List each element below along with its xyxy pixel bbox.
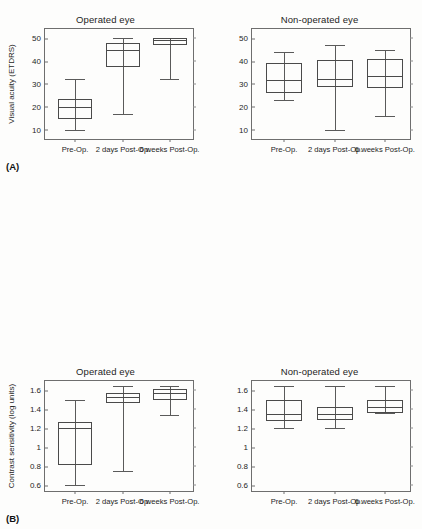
x-tick-0 bbox=[75, 491, 76, 494]
y-tick-right-20 bbox=[193, 106, 196, 107]
y-axis-label-text: Visual acuity (ETDRS) bbox=[6, 28, 18, 140]
x-tick-2 bbox=[384, 491, 385, 494]
x-tick-0 bbox=[75, 139, 76, 142]
x-tick-1 bbox=[123, 491, 124, 494]
y-tick-1.6: 1.6 bbox=[237, 386, 252, 395]
y-tick-right-1.6 bbox=[410, 390, 413, 391]
median-line bbox=[317, 414, 353, 415]
whisker-cap-upper bbox=[65, 400, 84, 401]
x-axis-label-2: 6 weeks Post-Op. bbox=[140, 145, 200, 154]
y-axis-label: Visual acuity (ETDRS) bbox=[6, 28, 18, 140]
whisker-cap-upper bbox=[113, 386, 132, 387]
whisker-cap-lower bbox=[325, 428, 345, 429]
x-tick-2 bbox=[169, 491, 170, 494]
plot-area: 1020304050Pre-Op.2 days Post-Op.6 weeks … bbox=[251, 28, 411, 140]
y-tick-40: 40 bbox=[239, 57, 252, 66]
y-tick-right-50 bbox=[410, 38, 413, 39]
y-tick-0.6: 0.6 bbox=[30, 481, 45, 490]
median-line bbox=[266, 80, 302, 81]
y-tick-right-0.8 bbox=[410, 466, 413, 467]
median-line bbox=[367, 407, 403, 408]
panel-title: Operated eye bbox=[0, 366, 211, 377]
y-tick-right-10 bbox=[193, 129, 196, 130]
y-tick-1.6: 1.6 bbox=[30, 386, 45, 395]
y-axis-label-text: Contrast sensitivity (log units) bbox=[6, 380, 18, 492]
panel-title: Non-operated eye bbox=[211, 366, 422, 377]
plot-area: 0.60.811.21.41.6Pre-Op.2 days Post-Op.6 … bbox=[251, 380, 411, 492]
box bbox=[266, 400, 302, 421]
median-line bbox=[317, 79, 353, 80]
x-tick-0 bbox=[284, 491, 285, 494]
panel-title: Non-operated eye bbox=[211, 14, 422, 25]
y-tick-right-30 bbox=[193, 83, 196, 84]
y-tick-right-0.8 bbox=[193, 466, 196, 467]
y-tick-right-50 bbox=[193, 38, 196, 39]
panel-row-a: Operated eyeVisual acuity (ETDRS)1020304… bbox=[0, 0, 422, 176]
x-tick-1 bbox=[335, 491, 336, 494]
y-tick-right-0.6 bbox=[193, 485, 196, 486]
panel-title: Operated eye bbox=[0, 14, 211, 25]
y-tick-10: 10 bbox=[239, 125, 252, 134]
whisker-cap-upper bbox=[160, 386, 179, 387]
y-tick-1.4: 1.4 bbox=[30, 405, 45, 414]
y-tick-right-1.6 bbox=[193, 390, 196, 391]
median-line bbox=[266, 414, 302, 415]
whisker-cap-lower bbox=[65, 485, 84, 486]
y-tick-1.2: 1.2 bbox=[237, 424, 252, 433]
y-tick-right-1.4 bbox=[193, 409, 196, 410]
x-tick-1 bbox=[123, 139, 124, 142]
y-tick-0.8: 0.8 bbox=[30, 462, 45, 471]
whisker-cap-lower bbox=[375, 413, 395, 414]
y-tick-right-1.2 bbox=[193, 428, 196, 429]
whisker-cap-lower bbox=[65, 130, 84, 131]
panel-letter: (B) bbox=[6, 513, 19, 524]
y-tick-1.2: 1.2 bbox=[30, 424, 45, 433]
whisker-cap-upper bbox=[375, 386, 395, 387]
whisker-cap-lower bbox=[113, 471, 132, 472]
panel-b-non-operated: Non-operated eye0.60.811.21.41.6Pre-Op.2… bbox=[211, 352, 422, 528]
whisker-cap-upper bbox=[65, 79, 84, 80]
x-tick-2 bbox=[384, 139, 385, 142]
x-tick-0 bbox=[284, 139, 285, 142]
y-tick-right-10 bbox=[410, 129, 413, 130]
whisker-cap-upper bbox=[375, 50, 395, 51]
whisker-cap-upper bbox=[113, 38, 132, 39]
whisker-cap-lower bbox=[160, 79, 179, 80]
whisker-cap-upper bbox=[274, 386, 294, 387]
y-tick-20: 20 bbox=[239, 102, 252, 111]
x-axis-label-0: Pre-Op. bbox=[271, 145, 298, 154]
whisker-cap-lower bbox=[113, 114, 132, 115]
median-line bbox=[367, 76, 403, 77]
x-axis-label-2: 6 weeks Post-Op. bbox=[140, 497, 200, 506]
whisker-cap-lower bbox=[274, 100, 294, 101]
whisker-cap-upper bbox=[325, 386, 345, 387]
y-tick-10: 10 bbox=[32, 125, 45, 134]
y-tick-1: 1 bbox=[37, 443, 45, 452]
box bbox=[58, 99, 92, 120]
y-tick-right-40 bbox=[193, 61, 196, 62]
x-axis-label-0: Pre-Op. bbox=[62, 145, 89, 154]
y-tick-right-0.6 bbox=[410, 485, 413, 486]
whisker-cap-lower bbox=[325, 130, 345, 131]
x-tick-1 bbox=[335, 139, 336, 142]
y-tick-0.8: 0.8 bbox=[237, 462, 252, 471]
x-axis-label-2: 6 weeks Post-Op. bbox=[355, 145, 415, 154]
x-axis-label-0: Pre-Op. bbox=[271, 497, 298, 506]
whisker-cap-lower bbox=[375, 116, 395, 117]
y-tick-0.6: 0.6 bbox=[237, 481, 252, 490]
y-tick-right-1.2 bbox=[410, 428, 413, 429]
y-tick-30: 30 bbox=[239, 79, 252, 88]
whisker-line bbox=[335, 45, 336, 130]
median-line bbox=[106, 397, 140, 398]
y-tick-right-1 bbox=[193, 447, 196, 448]
panel-a-operated: Operated eyeVisual acuity (ETDRS)1020304… bbox=[0, 0, 211, 176]
whisker-cap-upper bbox=[325, 45, 345, 46]
y-tick-20: 20 bbox=[32, 102, 45, 111]
median-line bbox=[153, 393, 187, 394]
y-tick-right-1 bbox=[410, 447, 413, 448]
box bbox=[367, 59, 403, 89]
x-axis-label-0: Pre-Op. bbox=[62, 497, 89, 506]
panel-b-operated: Operated eyeContrast sensitivity (log un… bbox=[0, 352, 211, 528]
boxplot-figure: Operated eyeVisual acuity (ETDRS)1020304… bbox=[0, 0, 422, 529]
median-line bbox=[58, 107, 92, 108]
